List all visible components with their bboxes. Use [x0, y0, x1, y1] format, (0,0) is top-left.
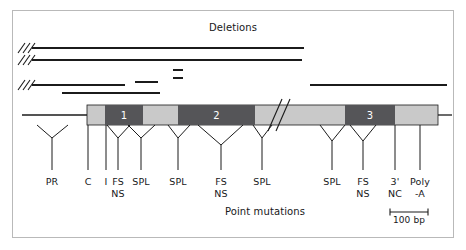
mutation-label: SPL [132, 176, 149, 187]
mutation-label: FS [112, 176, 124, 187]
exon-label: 2 [213, 110, 219, 121]
deletions-title: Deletions [209, 22, 257, 33]
mutation-sublabel: NS [111, 188, 124, 199]
mutation-sublabel: -A [415, 188, 425, 199]
mutation-wedge-left [198, 125, 221, 145]
scale-bar-label: 100 bp [393, 215, 425, 226]
mutation-label: C [85, 176, 92, 187]
mutation-wedge-right [141, 125, 155, 138]
mutation-wedge-left [253, 125, 262, 138]
mutation-label: SPL [323, 176, 340, 187]
mutation-label: PR [46, 176, 59, 187]
mutation-wedge-left [128, 125, 141, 138]
mutation-label: FS [357, 176, 369, 187]
mutation-sublabel: NS [356, 188, 369, 199]
mutation-wedge-left [168, 125, 178, 138]
mutation-wedge-left [107, 125, 118, 138]
mutation-label: SPL [253, 176, 270, 187]
mutation-wedge-right [221, 125, 243, 145]
mutation-label: I [105, 176, 108, 187]
mutation-wedge-left [320, 125, 332, 141]
exon-label: 3 [367, 110, 373, 121]
mutation-label: FS [215, 176, 227, 187]
mutation-wedge-right [332, 125, 345, 141]
mutation-label: 3' [391, 176, 400, 187]
mutation-label: Poly [410, 176, 430, 187]
mutation-label: SPL [169, 176, 186, 187]
exon-label: 1 [121, 110, 127, 121]
mutation-sublabel: NC [388, 188, 402, 199]
mutation-wedge-left [37, 125, 52, 138]
mutation-wedge-right [52, 125, 68, 138]
mutation-wedge-right [118, 125, 130, 138]
mutation-wedge-right [363, 125, 376, 141]
point-mutations-title: Point mutations [225, 206, 305, 217]
mutation-wedge-right [178, 125, 190, 138]
figure-root: 123 PRCIFSNSSPLSPLFSNSSPLSPLFSNS3'NCPoly… [0, 0, 466, 250]
mutation-wedge-left [350, 125, 363, 141]
mutation-sublabel: NS [214, 188, 227, 199]
mutation-wedge-right [262, 125, 272, 138]
